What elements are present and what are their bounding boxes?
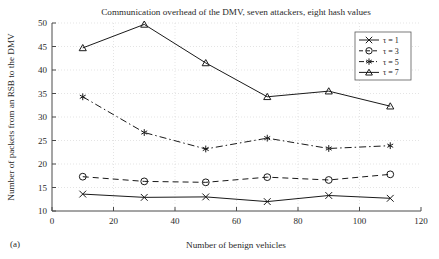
communication-overhead-line-chart: Communication overhead of the DMV, seven… [0,0,439,259]
y-tick-label: 35 [38,89,48,99]
legend-label: τ = 3 [383,47,399,56]
y-tick-label: 25 [38,136,48,146]
x-tick-label: 100 [353,216,367,226]
y-tick-label: 40 [38,65,48,75]
y-axis-label: Number of packets from an RSB to the DMV [6,33,16,201]
x-axis-label: Number of benign vehicles [186,240,286,250]
x-tick-label: 60 [232,216,242,226]
y-tick-label: 50 [38,18,48,28]
y-tick-labels: 101520253035404550 [38,18,48,216]
y-tick-label: 15 [38,183,48,193]
chart-legend: τ = 1τ = 3τ = 5τ = 7 [355,32,411,80]
x-tick-label: 20 [109,216,119,226]
y-tick-label: 30 [38,112,48,122]
x-tick-label: 80 [294,216,304,226]
x-tick-label: 0 [50,216,55,226]
y-tick-label: 10 [38,206,48,216]
legend-label: τ = 1 [383,36,399,45]
legend-label: τ = 5 [383,58,399,67]
chart-title: Communication overhead of the DMV, seven… [101,7,371,17]
legend-label: τ = 7 [383,68,399,77]
y-tick-label: 45 [38,42,48,52]
y-tick-label: 20 [38,159,48,169]
x-tick-label: 120 [414,216,428,226]
panel-caption: (a) [10,239,20,249]
x-tick-label: 40 [171,216,181,226]
figure-panel: Communication overhead of the DMV, seven… [0,0,439,259]
